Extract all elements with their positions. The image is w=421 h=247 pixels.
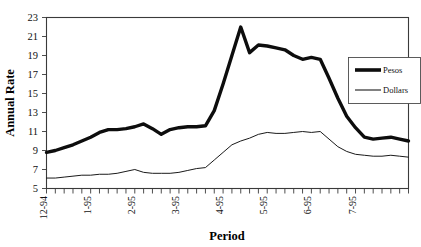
- legend-label-dollars: Dollars: [383, 85, 408, 95]
- y-tick-label: 7: [33, 164, 38, 175]
- y-tick-label: 11: [28, 126, 38, 137]
- chart-svg: 57911131517192123 12-941-952-953-954-955…: [0, 0, 421, 247]
- y-tick-label: 23: [28, 12, 39, 23]
- y-axis-title: Annual Rate: [3, 69, 17, 137]
- y-tick-label: 21: [28, 31, 39, 42]
- x-tick-label: 5-95: [258, 196, 269, 214]
- y-tick-label: 19: [28, 50, 39, 61]
- x-tick-label: 2-95: [126, 196, 137, 214]
- x-tick-label: 12-94: [38, 196, 49, 219]
- x-tick-label: 6-95: [302, 196, 313, 214]
- x-axis-ticks: [47, 189, 409, 194]
- y-tick-label: 9: [33, 145, 38, 156]
- x-axis-tick-labels: 12-941-952-953-954-955-956-957-95: [38, 196, 358, 219]
- y-tick-label: 15: [28, 88, 39, 99]
- y-axis-tick-labels: 57911131517192123: [28, 12, 39, 194]
- line-chart: 57911131517192123 12-941-952-953-954-955…: [0, 0, 421, 247]
- legend: Pesos Dollars: [349, 58, 421, 104]
- y-tick-label: 5: [33, 183, 38, 194]
- x-tick-label: 3-95: [170, 196, 181, 214]
- x-tick-label: 7-95: [347, 196, 358, 214]
- legend-label-pesos: Pesos: [383, 65, 402, 75]
- x-tick-label: 4-95: [214, 196, 225, 214]
- series-line-dollars: [47, 132, 409, 179]
- y-axis-ticks: [42, 18, 47, 189]
- x-axis-title: Period: [209, 229, 244, 243]
- y-tick-label: 17: [28, 69, 39, 80]
- y-tick-label: 13: [28, 107, 39, 118]
- x-tick-label: 1-95: [82, 196, 93, 214]
